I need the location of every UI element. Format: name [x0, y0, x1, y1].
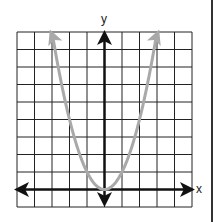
graph-plot	[0, 0, 216, 222]
x-axis-label: x	[196, 182, 202, 196]
y-axis-label: y	[101, 12, 107, 26]
axes	[19, 35, 190, 202]
right-divider-line	[211, 0, 213, 222]
